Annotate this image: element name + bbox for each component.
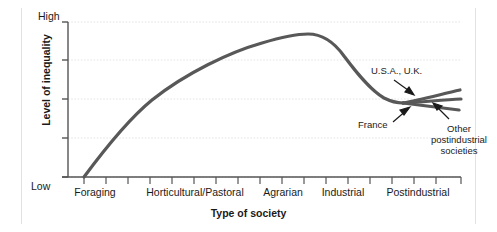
france-branch <box>403 103 459 110</box>
x-axis-title: Type of society <box>0 207 497 219</box>
grid-lines <box>68 22 461 177</box>
y-axis-ticks <box>62 22 68 177</box>
inequality-curve <box>84 34 403 177</box>
y-axis-low-label: Low <box>31 180 50 192</box>
x-tick-label-foraging: Foraging <box>55 186 135 198</box>
annotation-other-line-3: societies <box>424 146 494 157</box>
france-arrow-head <box>400 107 410 115</box>
annotation-france: France <box>358 120 388 131</box>
y-axis-title: Level of inequality <box>40 20 52 140</box>
annotation-other-postindustrial: Other postindustrial societies <box>424 124 494 157</box>
x-tick-label-postindustrial: Postindustrial <box>368 186 468 198</box>
annotation-usa-uk: U.S.A., U.K. <box>371 66 422 77</box>
x-axis-ticks <box>84 177 461 184</box>
chart-figure: High Low Level of inequality Foraging Ho… <box>0 0 497 232</box>
